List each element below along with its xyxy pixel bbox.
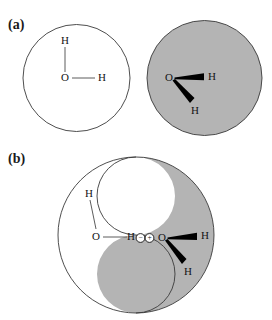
panel-a-graphic: H O H O H H [0, 0, 272, 150]
hydrogen-label-lower: H [184, 265, 192, 277]
panel-b-graphic: H O H − + O H H [0, 145, 272, 320]
hydrogen-label-right: H [208, 70, 216, 82]
hydrogen-label-lower: H [191, 104, 199, 116]
oxygen-label: O [158, 231, 166, 243]
hydrogen-label-upper: H [85, 187, 93, 199]
negative-charge-symbol: − [138, 233, 142, 242]
hydrogen-label-upper: H [61, 34, 69, 46]
positive-charge-symbol: + [147, 233, 151, 242]
hydrogen-label-right: H [201, 229, 209, 241]
hydrogen-label-right: H [127, 230, 135, 242]
oxygen-label: O [61, 71, 69, 83]
oxygen-label: O [165, 71, 173, 83]
hydrogen-label-right: H [98, 71, 106, 83]
oxygen-label: O [92, 230, 100, 242]
water-molecule-figure: (a) (b) H O H O H H [0, 0, 272, 320]
